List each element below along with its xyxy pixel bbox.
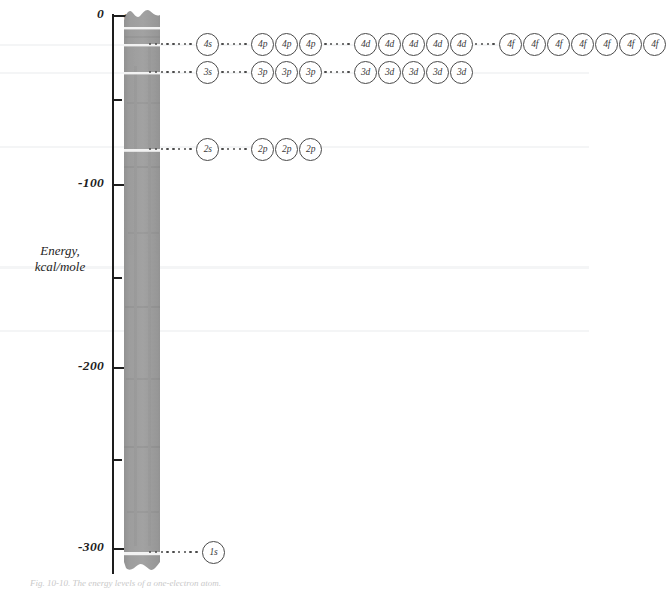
axis-label-100: -100 — [26, 175, 104, 191]
orbital-1s: 1s — [202, 541, 225, 564]
orbital-4d: 4d — [378, 33, 401, 56]
orbital-4d: 4d — [402, 33, 425, 56]
leader-dots — [221, 34, 250, 55]
orbital-4f: 4f — [547, 33, 570, 56]
leader-dots — [324, 62, 353, 83]
orbital-2p: 2p — [275, 138, 298, 161]
leader-dots — [475, 34, 498, 55]
orbital-4f: 4f — [571, 33, 594, 56]
orbital-4f: 4f — [619, 33, 642, 56]
orbital-3d: 3d — [402, 61, 425, 84]
axis-title: Energy, kcal/mole — [12, 243, 108, 276]
leader-dots — [324, 34, 353, 55]
continuum-bar — [122, 6, 164, 578]
orbital-2s: 2s — [196, 138, 219, 161]
orbital-3p: 3p — [299, 61, 322, 84]
leader-dots — [149, 62, 195, 83]
axis-tick-minor — [114, 99, 122, 101]
orbital-4f: 4f — [499, 33, 522, 56]
orbital-4f: 4f — [595, 33, 618, 56]
leader-dots — [149, 34, 195, 55]
orbital-4f: 4f — [523, 33, 546, 56]
orbital-row-n1: 1s — [148, 541, 226, 563]
axis-label-200: -200 — [26, 358, 104, 374]
orbital-3d: 3d — [354, 61, 377, 84]
scan-artifact — [0, 330, 589, 332]
orbital-4p: 4p — [251, 33, 274, 56]
orbital-row-n3: 3s3p3p3p3d3d3d3d3d — [148, 61, 474, 83]
orbital-4d: 4d — [354, 33, 377, 56]
axis-label-0: 0 — [26, 6, 104, 22]
axis-tick-minor — [114, 459, 122, 461]
orbital-2p: 2p — [299, 138, 322, 161]
leader-dots — [149, 139, 195, 160]
leader-dots — [221, 139, 250, 160]
axis-title-line2: kcal/mole — [12, 259, 108, 275]
axis-label-300: -300 — [26, 539, 104, 555]
energy-axis-line — [112, 14, 114, 574]
axis-tick-minor — [114, 277, 122, 279]
orbital-row-n2: 2s2p2p2p — [148, 138, 323, 160]
orbital-4p: 4p — [299, 33, 322, 56]
orbital-4d: 4d — [450, 33, 473, 56]
figure-caption: Fig. 10-10. The energy levels of a one-e… — [30, 578, 570, 589]
leader-dots — [149, 542, 201, 563]
orbital-3d: 3d — [450, 61, 473, 84]
leader-dots — [221, 62, 250, 83]
orbital-4s: 4s — [196, 33, 219, 56]
orbital-4f: 4f — [643, 33, 666, 56]
orbital-4p: 4p — [275, 33, 298, 56]
orbital-4d: 4d — [426, 33, 449, 56]
orbital-3d: 3d — [378, 61, 401, 84]
orbital-2p: 2p — [251, 138, 274, 161]
orbital-row-n4: 4s4p4p4p4d4d4d4d4d4f4f4f4f4f4f4f — [148, 33, 667, 55]
axis-title-line1: Energy, — [12, 243, 108, 259]
orbital-3p: 3p — [251, 61, 274, 84]
orbital-3d: 3d — [426, 61, 449, 84]
orbital-3p: 3p — [275, 61, 298, 84]
orbital-3s: 3s — [196, 61, 219, 84]
